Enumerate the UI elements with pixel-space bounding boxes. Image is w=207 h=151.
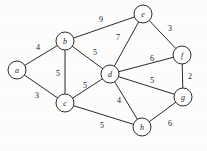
graph-edge-d-f [119, 57, 174, 71]
edge-weight-c-h: 5 [100, 121, 104, 130]
edge-weight-e-f: 3 [168, 24, 172, 33]
graph-edge-b-d [72, 46, 102, 68]
nodes-layer: abcdefgh [8, 5, 192, 136]
graph-node-b: b [56, 32, 74, 50]
graph-node-f: f [173, 46, 191, 64]
edge-weight-a-c: 3 [35, 91, 39, 100]
graph-node-a: a [8, 61, 26, 79]
node-label-b: b [63, 37, 67, 46]
edge-weight-f-g: 2 [188, 72, 192, 81]
graph-edge-c-d [73, 79, 103, 98]
edge-weight-d-h: 4 [117, 96, 121, 105]
graph-edge-b-e [74, 17, 135, 38]
node-label-h: h [140, 123, 144, 132]
edge-weight-b-c: 5 [56, 69, 60, 78]
graph-diagram: abcdefgh 43559557654326 [0, 0, 207, 151]
graph-edge-a-c [24, 75, 57, 98]
edge-weight-b-d: 5 [93, 48, 97, 57]
edge-weight-d-e: 7 [116, 33, 120, 42]
graph-edge-f-g [182, 64, 183, 88]
graph-node-h: h [133, 118, 151, 136]
edge-weight-a-b: 4 [36, 43, 40, 52]
graph-canvas: abcdefgh 43559557654326 [0, 0, 207, 151]
graph-node-g: g [174, 88, 192, 106]
graph-node-c: c [56, 94, 74, 112]
node-label-c: c [63, 99, 67, 108]
edge-weight-d-g: 5 [150, 76, 154, 85]
graph-node-e: e [134, 5, 152, 23]
edge-weight-g-h: 6 [168, 119, 172, 128]
edge-weight-c-d: 5 [83, 81, 87, 90]
graph-edge-a-b [25, 46, 58, 66]
node-label-g: g [181, 93, 185, 102]
graph-edge-d-g [119, 77, 175, 95]
graph-edge-d-e [114, 22, 138, 66]
edge-weight-d-f: 6 [150, 54, 154, 63]
edge-weight-b-e: 9 [99, 15, 103, 24]
node-label-e: e [141, 10, 145, 19]
graph-node-d: d [101, 65, 119, 83]
node-label-a: a [15, 66, 19, 75]
